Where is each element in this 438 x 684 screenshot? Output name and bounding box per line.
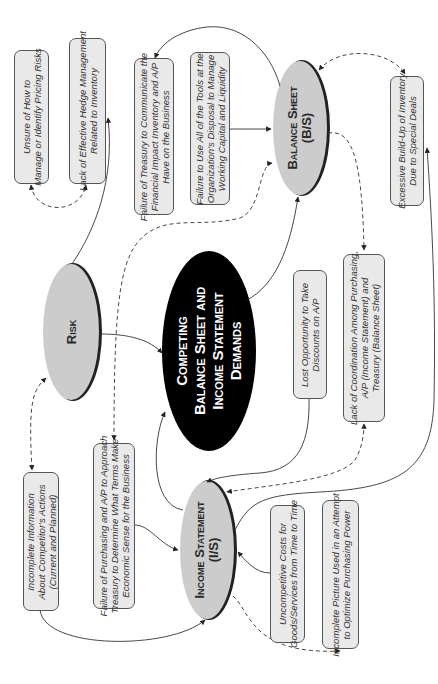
box-uncompetitive-costs: Uncompetitive Costs for Goods/Services f… <box>270 505 305 643</box>
box-failure-purchasing-ap: Failure of Purchasing and A/P to Approac… <box>93 443 135 609</box>
box-text: Failure of Purchasing and A/P to Approac… <box>98 436 131 617</box>
balance-sheet-label: Balance Sheet (B/S) <box>286 86 314 169</box>
box-text: Failure to Use All of the Tools at the O… <box>194 53 227 204</box>
income-statement-label: Income Statement (I/S) <box>193 501 221 598</box>
box-text: Lack of Coordination Among Purchasing, A… <box>348 251 381 425</box>
box-lost-opportunity: Lost Opportunity to Take Discounts on A/… <box>293 270 327 399</box>
box-text: Incomplete Information About Competitor'… <box>25 484 58 599</box>
box-text: Uncompetitive Costs for Goods/Services f… <box>277 500 299 648</box>
box-text: Lost Opportunity to Take Discounts on A/… <box>299 282 321 386</box>
box-failure-use-tools: Failure to Use All of the Tools at the O… <box>190 52 230 205</box>
box-lack-hedge-management: Lack of Effective Hedge Management Relat… <box>69 38 106 184</box>
box-incomplete-information: Incomplete Information About Competitor'… <box>23 472 59 611</box>
box-unsure-pricing-risks: Unsure of How to Manage or Identify Pric… <box>14 50 49 184</box>
box-text: Excessive Build-Up of Inventory Due to S… <box>396 73 418 208</box>
risk-label: Risk <box>65 320 79 344</box>
box-text: Failure of Treasury to Communicate the F… <box>138 52 171 220</box>
box-incomplete-picture: Incomplete Picture Used in an Attempt to… <box>322 500 359 649</box>
center-label: Competing Balance Sheet and Income State… <box>173 287 245 415</box>
box-lack-coordination: Lack of Coordination Among Purchasing, A… <box>343 254 385 422</box>
box-text: Unsure of How to Manage or Identify Pric… <box>21 48 43 186</box>
box-excessive-buildup: Excessive Build-Up of Inventory Due to S… <box>390 76 424 206</box>
box-text: Lack of Effective Hedge Management Relat… <box>77 31 99 191</box>
box-text: Incomplete Picture Used in an Attempt to… <box>330 493 352 656</box>
box-failure-treasury-communicate: Failure of Treasury to Communicate the F… <box>134 58 174 215</box>
